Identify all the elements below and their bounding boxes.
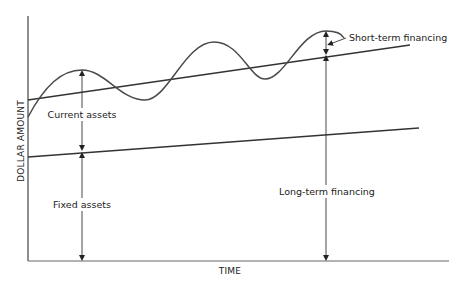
total-assets-curve bbox=[28, 31, 344, 117]
financing-diagram: Current assets Fixed assets Long-term fi… bbox=[0, 0, 463, 286]
y-axis-label: DOLLAR AMOUNT bbox=[16, 100, 26, 182]
fixed-assets-line bbox=[28, 128, 419, 157]
fixed-assets-label: Fixed assets bbox=[53, 199, 111, 210]
short-term-financing-label: Short-term financing bbox=[349, 32, 447, 43]
permanent-assets-line bbox=[28, 45, 410, 100]
current-assets-label: Current assets bbox=[48, 109, 117, 120]
long-term-financing-label: Long-term financing bbox=[279, 186, 375, 197]
x-axis-label: TIME bbox=[218, 266, 242, 276]
short-term-leader bbox=[330, 38, 346, 44]
